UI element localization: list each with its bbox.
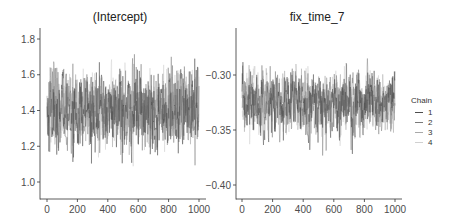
legend-label: 2 — [428, 118, 432, 127]
x-tick-label: 800 — [356, 204, 373, 215]
panel-title-fix-time-7: fix_time_7 — [290, 10, 345, 24]
legend-key-chain-1 — [415, 112, 423, 113]
y-tick-label: −0.40 — [206, 180, 232, 191]
y-tick-label: −0.35 — [206, 125, 232, 136]
x-tick-label: 200 — [69, 204, 86, 215]
x-tick-label: 1000 — [384, 204, 407, 215]
legend-label: 3 — [428, 128, 432, 137]
y-tick-label: 1.6 — [21, 69, 35, 80]
y-tick-label: 1.0 — [21, 177, 35, 188]
x-tick-label: 0 — [239, 204, 245, 215]
x-tick-label: 600 — [325, 204, 342, 215]
legend-key-chain-3 — [415, 132, 423, 133]
x-tick-label: 1000 — [188, 204, 211, 215]
trace-plot-canvas: (Intercept) 1.01.21.41.61.80200400600800… — [0, 0, 454, 224]
x-tick-label: 600 — [130, 204, 147, 215]
legend-label: 1 — [428, 108, 432, 117]
x-tick-label: 800 — [160, 204, 177, 215]
legend-key-chain-4 — [415, 142, 423, 143]
legend-key-chain-2 — [415, 122, 423, 123]
x-tick-label: 200 — [264, 204, 281, 215]
legend-item-chain-2: 2 — [411, 117, 451, 127]
panel-title-intercept: (Intercept) — [93, 10, 148, 24]
panel-fix-time-7: fix_time_7 −0.30−0.35−0.4002004006008001… — [206, 10, 407, 215]
legend-label: 4 — [428, 138, 432, 147]
trace-lines-fix-time-7 — [242, 59, 395, 156]
x-tick-label: 0 — [44, 204, 50, 215]
trace-lines-intercept — [47, 54, 199, 166]
trace-plot-figure: (Intercept) 1.01.21.41.61.80200400600800… — [0, 0, 454, 224]
legend-item-chain-1: 1 — [411, 107, 451, 117]
y-tick-label: −0.30 — [206, 70, 232, 81]
legend-item-chain-3: 3 — [411, 127, 451, 137]
legend-title: Chain — [411, 96, 451, 105]
x-tick-label: 400 — [295, 204, 312, 215]
legend-item-chain-4: 4 — [411, 137, 451, 147]
panel-intercept: (Intercept) 1.01.21.41.61.80200400600800… — [21, 10, 210, 215]
y-tick-label: 1.2 — [21, 141, 35, 152]
y-tick-label: 1.4 — [21, 105, 35, 116]
chain-legend: Chain 1 2 3 4 — [411, 96, 451, 147]
x-tick-label: 400 — [99, 204, 116, 215]
y-tick-label: 1.8 — [21, 34, 35, 45]
